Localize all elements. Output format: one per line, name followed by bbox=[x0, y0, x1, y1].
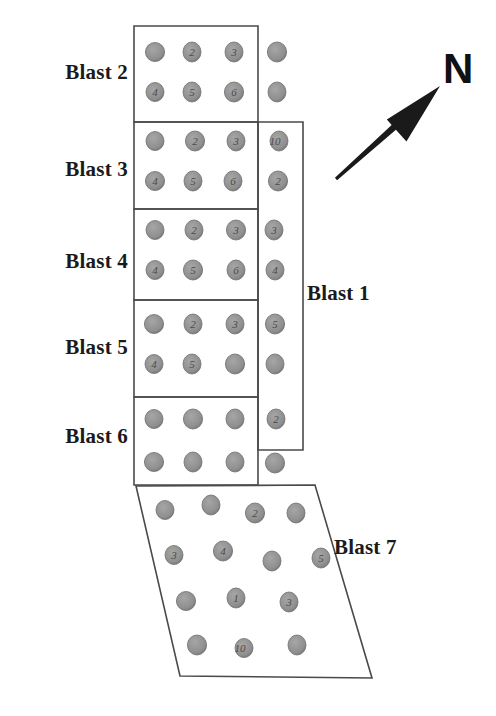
blast-hole[interactable] bbox=[183, 409, 202, 429]
hole-number-label: 3 bbox=[231, 318, 238, 330]
hole-marker bbox=[265, 453, 284, 473]
blast-hole[interactable]: 5 bbox=[183, 260, 202, 280]
blast-hole[interactable]: 5 bbox=[183, 82, 201, 102]
blast-hole[interactable]: 4 bbox=[145, 172, 164, 191]
hole-marker bbox=[288, 635, 306, 655]
blast-hole[interactable] bbox=[268, 82, 286, 102]
blast-hole[interactable] bbox=[187, 635, 206, 655]
blast-hole[interactable] bbox=[146, 132, 164, 151]
blast-hole[interactable]: 3 bbox=[165, 546, 183, 565]
blast-hole[interactable]: 10 bbox=[235, 639, 254, 658]
hole-marker bbox=[144, 315, 163, 334]
north-letter-label: N bbox=[443, 48, 473, 90]
blast-hole[interactable]: 6 bbox=[224, 171, 242, 191]
blast-hole[interactable]: 4 bbox=[145, 355, 163, 374]
hole-marker bbox=[183, 409, 202, 429]
hole-number-label: 4 bbox=[152, 264, 158, 276]
blast-label-blast-3: Blast 3 bbox=[24, 157, 128, 182]
blast-hole[interactable] bbox=[287, 503, 305, 523]
hole-number-label: 5 bbox=[190, 175, 196, 187]
blast-hole[interactable]: 2 bbox=[183, 42, 201, 62]
blast-hole[interactable]: 10 bbox=[270, 131, 289, 151]
hole-number-label: 3 bbox=[232, 135, 239, 147]
hole-number-label: 4 bbox=[151, 358, 157, 370]
blast-hole[interactable] bbox=[266, 354, 284, 374]
blast-hole[interactable] bbox=[184, 452, 202, 472]
blast-label-blast-7: Blast 7 bbox=[334, 535, 434, 560]
blast-hole[interactable]: 2 bbox=[185, 220, 203, 240]
hole-marker bbox=[202, 495, 220, 515]
hole-number-label: 6 bbox=[231, 86, 237, 98]
blast-hole[interactable]: 3 bbox=[225, 42, 243, 62]
blast-hole[interactable]: 4 bbox=[146, 261, 164, 280]
blast-hole[interactable] bbox=[145, 43, 164, 62]
hole-marker bbox=[226, 409, 244, 429]
hole-marker bbox=[146, 221, 164, 240]
blast-hole[interactable]: 4 bbox=[146, 83, 164, 102]
blast-hole[interactable] bbox=[265, 453, 284, 473]
blast-hole[interactable] bbox=[176, 592, 195, 611]
hole-marker bbox=[144, 453, 163, 472]
hole-number-label: 4 bbox=[152, 175, 158, 187]
blast-hole[interactable] bbox=[202, 495, 220, 515]
blast-hole[interactable] bbox=[226, 452, 244, 472]
hole-number-label: 10 bbox=[235, 642, 247, 654]
blast-hole[interactable] bbox=[225, 354, 244, 374]
hole-number-label: 10 bbox=[270, 135, 282, 147]
blast-hole[interactable]: 6 bbox=[227, 260, 245, 280]
hole-number-label: 5 bbox=[189, 86, 195, 98]
blast-hole[interactable]: 2 bbox=[245, 503, 264, 523]
blast-label-blast-5: Blast 5 bbox=[24, 335, 128, 360]
blast-hole[interactable]: 3 bbox=[265, 220, 283, 240]
blast-hole[interactable]: 4 bbox=[266, 260, 284, 280]
blast-hole[interactable] bbox=[145, 410, 163, 429]
hole-number-label: 3 bbox=[170, 549, 177, 561]
blast-label-blast-6: Blast 6 bbox=[24, 424, 128, 449]
hole-number-label: 5 bbox=[189, 358, 195, 370]
hole-marker bbox=[263, 551, 281, 571]
blast-hole[interactable]: 3 bbox=[227, 131, 245, 151]
blast-hole[interactable]: 5 bbox=[183, 354, 201, 374]
blast-hole[interactable] bbox=[144, 453, 163, 472]
hole-number-label: 3 bbox=[230, 46, 237, 58]
blast-hole[interactable]: 5 bbox=[184, 171, 202, 191]
blast-hole[interactable]: 2 bbox=[185, 131, 204, 151]
hole-marker bbox=[225, 354, 244, 374]
blast-region-outlines bbox=[134, 26, 372, 678]
hole-number-label: 2 bbox=[191, 224, 197, 236]
hole-number-label: 5 bbox=[272, 318, 278, 330]
blast-hole[interactable] bbox=[146, 221, 164, 240]
blast-hole[interactable]: 5 bbox=[265, 314, 284, 334]
blast-hole[interactable]: 3 bbox=[226, 314, 244, 334]
hole-number-label: 5 bbox=[318, 552, 324, 564]
hole-marker bbox=[187, 635, 206, 655]
hole-number-label: 2 bbox=[189, 46, 195, 58]
blast-hole[interactable]: 2 bbox=[267, 409, 285, 429]
blast-hole[interactable]: 6 bbox=[224, 82, 243, 102]
blast-hole[interactable]: 1 bbox=[227, 588, 245, 608]
blast-hole[interactable]: 3 bbox=[280, 592, 298, 612]
blast-hole[interactable]: 4 bbox=[213, 541, 232, 561]
hole-marker bbox=[226, 452, 244, 472]
blast-hole[interactable] bbox=[263, 551, 281, 571]
blast-hole[interactable] bbox=[226, 409, 244, 429]
blast-hole[interactable]: 2 bbox=[268, 171, 287, 191]
blast-label-blast-4: Blast 4 bbox=[24, 249, 128, 274]
hole-marker bbox=[156, 501, 174, 520]
blast-hole[interactable] bbox=[288, 635, 306, 655]
north-arrow-shape bbox=[335, 86, 440, 180]
hole-number-label: 2 bbox=[273, 413, 279, 425]
hole-marker bbox=[145, 43, 164, 62]
hole-marker bbox=[268, 82, 286, 102]
blast-hole[interactable]: 3 bbox=[226, 220, 245, 240]
blast-hole[interactable] bbox=[156, 501, 174, 520]
hole-number-label: 3 bbox=[285, 596, 292, 608]
blast-region-blast-2[interactable] bbox=[134, 26, 258, 122]
blast-hole[interactable] bbox=[267, 42, 286, 62]
blast-hole[interactable]: 5 bbox=[312, 548, 330, 568]
blast-hole[interactable]: 2 bbox=[184, 314, 202, 334]
hole-number-label: 1 bbox=[233, 592, 239, 604]
blast-label-blast-1: Blast 1 bbox=[307, 281, 407, 306]
blast-hole[interactable] bbox=[144, 315, 163, 334]
hole-marker bbox=[176, 592, 195, 611]
